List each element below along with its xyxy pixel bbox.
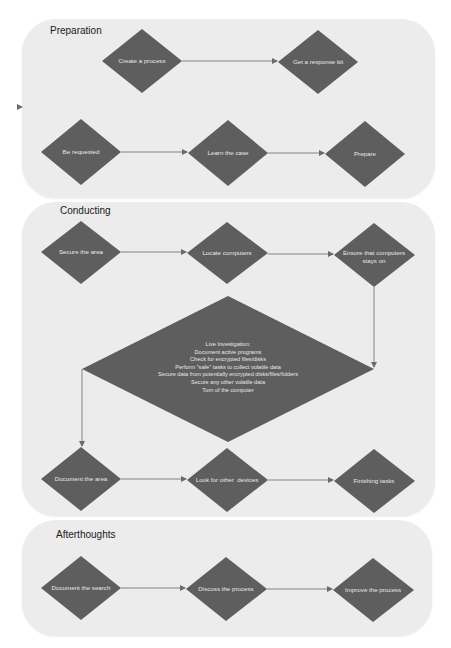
label-prepare: Prepare (354, 150, 376, 158)
stray-arrowhead-icon (17, 104, 23, 110)
live-line-title: Live Investigation: (158, 341, 298, 349)
live-line: Perform "safe" tasks to collect volatile… (158, 364, 298, 372)
label-get-response-kit: Get a response kit (293, 58, 343, 66)
label-create-process: Create a process (118, 57, 165, 65)
live-line: Check for encrypted files/disks (158, 357, 298, 365)
label-finishing-tasks: Finishing tasks (354, 477, 395, 485)
live-line: Document active programs (158, 349, 298, 357)
label-ensure-on: Ensure that computers stays on (337, 249, 411, 265)
label-live-investigation: Live Investigation: Document active prog… (158, 341, 298, 394)
label-document-search: Document the search (52, 584, 111, 592)
label-learn-case: Learn the case (208, 149, 249, 157)
label-look-other-devices: Look for other devices (196, 476, 259, 484)
label-locate-computers: Locate computers (202, 249, 251, 257)
label-be-requested: Be requested (63, 148, 100, 156)
label-improve-process: Improve the process (345, 586, 401, 594)
live-line: Turn of the computer (158, 387, 298, 395)
label-secure-area: Secure the area (59, 248, 103, 256)
live-line: Secure any other volatile data (158, 379, 298, 387)
flowchart-canvas (0, 0, 451, 648)
label-document-area: Document the area (55, 475, 108, 483)
label-discuss-process: Discuss the process (198, 585, 253, 593)
live-line: Secure data from potentially encrypted d… (158, 372, 298, 380)
